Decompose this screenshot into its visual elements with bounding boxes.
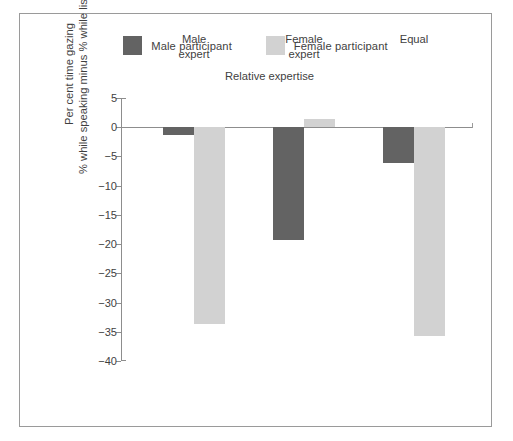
group-axis-title-text: Relative expertise (225, 70, 314, 82)
y-axis-cap-bottom (121, 360, 126, 361)
y-tick-label: −20 (98, 238, 117, 250)
y-tick-label: 0 (111, 121, 117, 133)
y-axis-cap-top (121, 98, 126, 99)
y-tick-label: −15 (98, 209, 117, 221)
bar-equal-male (383, 127, 414, 163)
group-axis-title: Relative expertise (20, 70, 491, 82)
y-tick-label: −10 (98, 180, 117, 192)
category-label-line: expert (149, 47, 239, 62)
y-tick-label: −25 (98, 267, 117, 279)
category-label-equal: Equal (369, 32, 459, 47)
category-label-female-expert: Femaleexpert (259, 32, 349, 61)
category-label-line: Female (259, 32, 349, 47)
bar-female-expert-male (273, 127, 304, 240)
plot-area: 50−5−10−15−20−25−30−35−40 MaleexpertFema… (121, 86, 473, 398)
category-label-line: expert (259, 47, 349, 62)
bar-female-expert-female (304, 119, 335, 127)
bar-male-expert-male (163, 127, 194, 135)
zero-baseline-end-tick (472, 123, 473, 128)
y-tick-label: −40 (98, 355, 117, 367)
y-tick-label: 5 (111, 92, 117, 104)
y-tick-label: −5 (104, 150, 117, 162)
bar-equal-female (414, 127, 445, 336)
category-label-line: Equal (369, 32, 459, 47)
y-tick-label: −30 (98, 297, 117, 309)
male-swatch-icon (123, 36, 142, 55)
y-axis-caption: Per cent time gazing % while speaking mi… (62, 0, 90, 174)
y-axis-line (121, 98, 122, 361)
y-axis-caption-line1: Per cent time gazing (62, 0, 76, 174)
category-label-male-expert: Maleexpert (149, 32, 239, 61)
y-tick-label: −35 (98, 326, 117, 338)
figure-frame: Male participant Female participant Rela… (19, 13, 492, 427)
category-label-line: Male (149, 32, 239, 47)
bar-male-expert-female (194, 127, 225, 324)
y-axis-caption-line2: % while speaking minus % while listening (76, 0, 90, 174)
